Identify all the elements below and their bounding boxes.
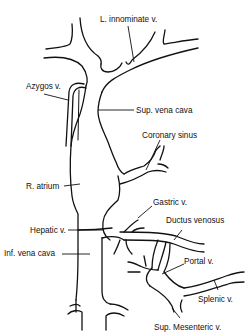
label-ductus-venosus: Ductus venosus <box>166 216 224 225</box>
label-azygos-v: Azygos v. <box>26 82 61 91</box>
azygos-vein <box>66 83 86 146</box>
label-hepatic-v: Hepatic v. <box>30 226 66 235</box>
label-gastric-v: Gastric v. <box>153 198 187 207</box>
innominate-veins <box>44 18 198 92</box>
label-sup-vena-cava: Sup. vena cava <box>136 106 193 115</box>
label-sup-mesenteric-v: Sup. Mesenteric v. <box>154 323 221 332</box>
label-inf-vena-cava: Inf. vena cava <box>4 249 55 258</box>
label-coronary-sinus: Coronary sinus <box>142 131 197 140</box>
venous-system-diagram: L. innominate v. Azygos v. Sup. vena cav… <box>0 0 250 336</box>
label-r-atrium: R. atrium <box>26 182 59 191</box>
label-l-innominate-v: L. innominate v. <box>100 15 157 24</box>
coronary-sinus <box>120 146 168 184</box>
label-splenic-v: Splenic v. <box>198 295 233 304</box>
label-portal-v: Portal v. <box>184 257 213 266</box>
